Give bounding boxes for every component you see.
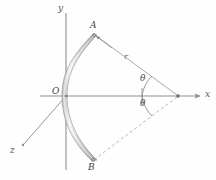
radius-arrow-to-a: [96, 36, 112, 48]
x-axis-label: x: [205, 90, 210, 99]
vertex-point: [176, 94, 179, 97]
origin-marker: [65, 95, 68, 98]
origin-label: O: [52, 87, 59, 96]
y-axis-label: y: [58, 4, 63, 13]
z-axis-line: [23, 96, 66, 145]
radius-line-lower-dashed: [95, 97, 177, 159]
radius-label: r: [124, 53, 128, 61]
theta-lower-label: θ: [140, 99, 145, 108]
point-a-label: A: [90, 21, 97, 30]
z-axis-end-dot: [22, 144, 24, 146]
theta-upper-label: θ: [140, 74, 145, 83]
z-axis-label: z: [10, 146, 15, 155]
geometry-diagram: [0, 0, 216, 180]
point-b-label: B: [88, 163, 95, 172]
figure-canvas: y x z O A B r θ θ: [0, 0, 216, 180]
